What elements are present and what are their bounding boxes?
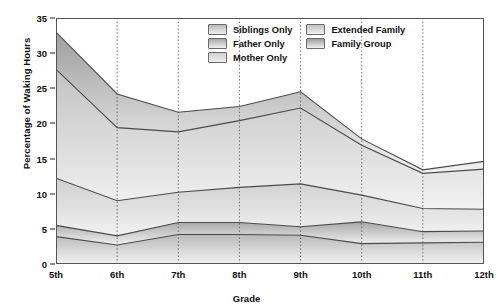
x-tick-11th: 11th: [400, 269, 446, 280]
chart-legend: Siblings OnlyFather OnlyMother Only Exte…: [208, 24, 405, 63]
legend-label: Siblings Only: [233, 25, 292, 35]
legend-item-mother-only[interactable]: Mother Only: [208, 52, 292, 63]
x-tick-6th: 6th: [94, 269, 140, 280]
y-tick-30: 30: [13, 48, 47, 59]
y-tick-mark-25: [50, 88, 55, 89]
legend-swatch-icon: [208, 52, 227, 63]
y-tick-mark-30: [50, 53, 55, 54]
legend-column-right: Extended FamilyFamily Group: [306, 24, 405, 63]
legend-label: Extended Family: [331, 25, 405, 35]
legend-item-siblings-only[interactable]: Siblings Only: [208, 24, 292, 35]
y-tick-35: 35: [13, 13, 47, 24]
legend-swatch-icon: [208, 38, 227, 49]
y-tick-mark-20: [50, 123, 55, 124]
y-tick-mark-10: [50, 193, 55, 194]
y-tick-0: 0: [13, 259, 47, 270]
legend-item-father-only[interactable]: Father Only: [208, 38, 292, 49]
legend-swatch-icon: [208, 24, 227, 35]
y-tick-5: 5: [13, 223, 47, 234]
x-tick-7th: 7th: [155, 269, 201, 280]
x-tick-10th: 10th: [339, 269, 385, 280]
x-tick-12th: 12th: [461, 269, 498, 280]
y-tick-mark-15: [50, 158, 55, 159]
x-tick-8th: 8th: [216, 269, 262, 280]
x-tick-9th: 9th: [278, 269, 324, 280]
y-axis-title: Percentage of Waking Hours: [21, 14, 32, 194]
legend-item-extended-family[interactable]: Extended Family: [306, 24, 405, 35]
legend-label: Family Group: [331, 39, 391, 49]
legend-swatch-icon: [306, 38, 325, 49]
y-tick-mark-35: [50, 18, 55, 19]
y-tick-15: 15: [13, 153, 47, 164]
legend-label: Father Only: [233, 39, 285, 49]
x-axis-title: Grade: [0, 293, 493, 304]
y-tick-25: 25: [13, 83, 47, 94]
y-tick-20: 20: [13, 118, 47, 129]
x-tick-5th: 5th: [33, 269, 79, 280]
legend-label: Mother Only: [233, 53, 287, 63]
legend-item-family-group[interactable]: Family Group: [306, 38, 405, 49]
legend-column-left: Siblings OnlyFather OnlyMother Only: [208, 24, 292, 63]
y-tick-mark-5: [50, 228, 55, 229]
legend-swatch-icon: [306, 24, 325, 35]
y-tick-mark-0: [50, 264, 55, 265]
y-tick-10: 10: [13, 188, 47, 199]
